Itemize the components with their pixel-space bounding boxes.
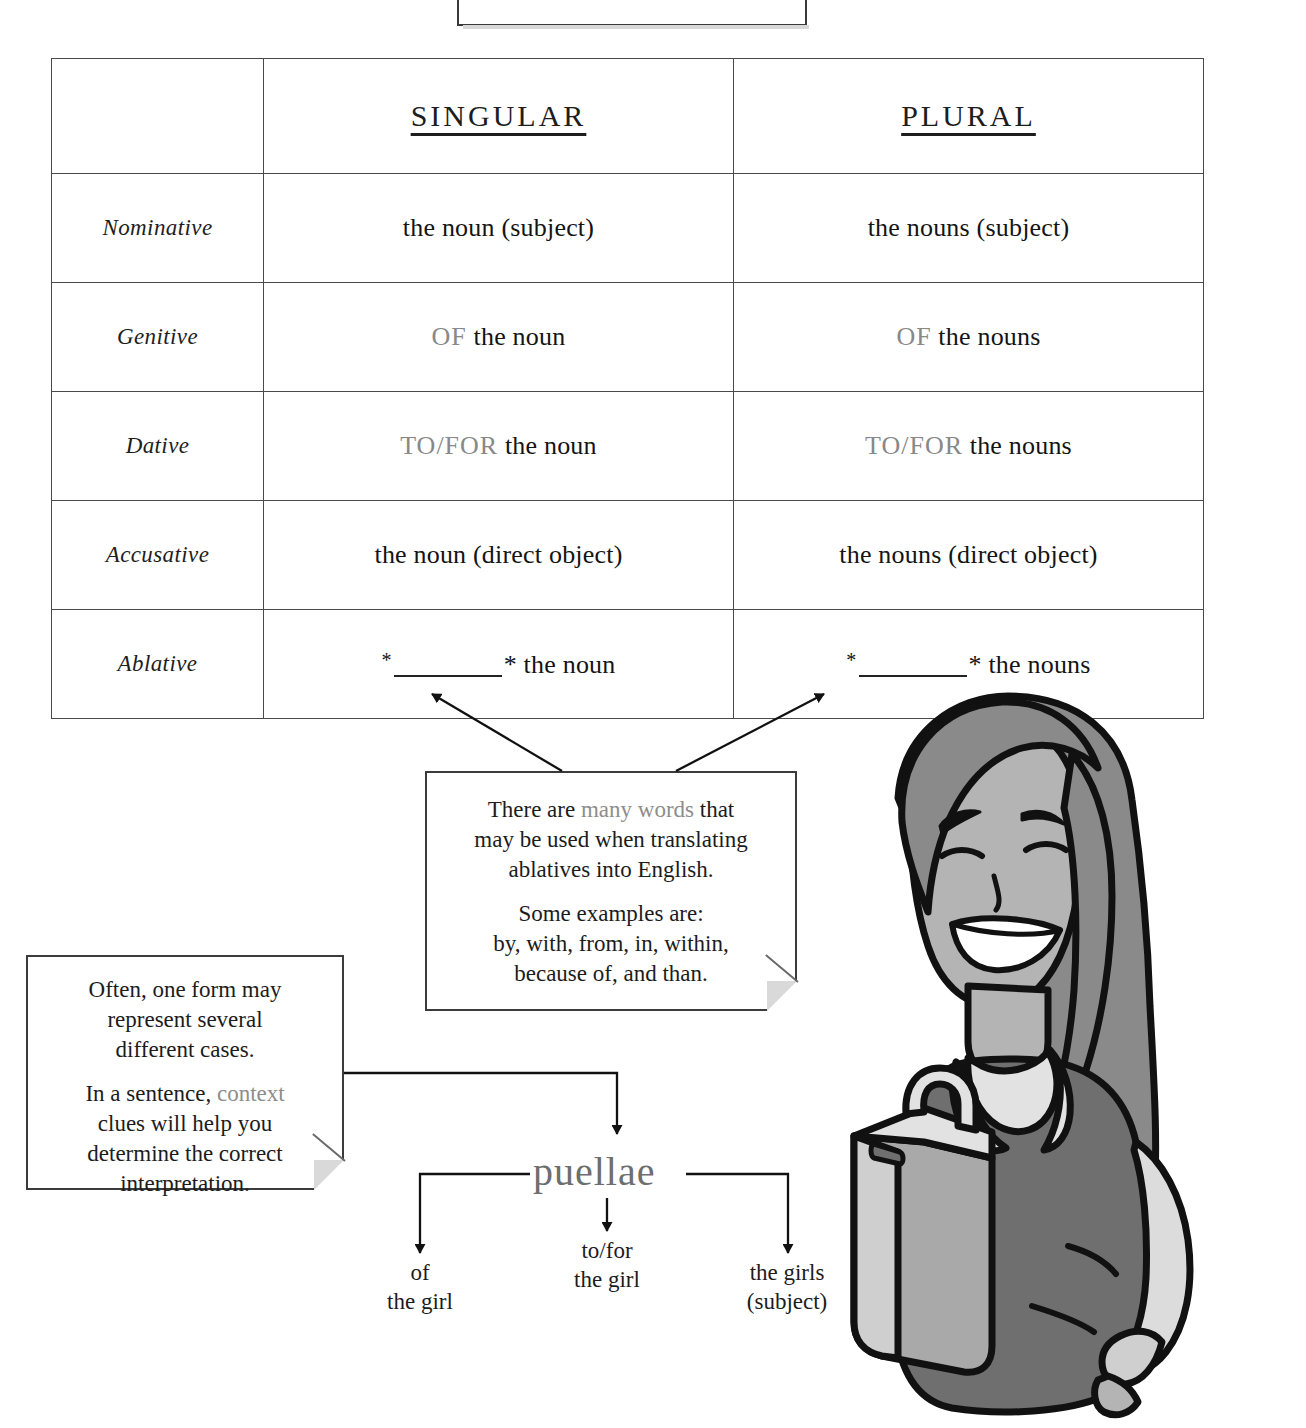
context-callout-line6: determine the correct (42, 1139, 328, 1169)
case-cell-dative: Dative (52, 392, 264, 501)
case-label-ablative: Ablative (118, 651, 198, 676)
noun-case-table: SINGULAR PLURAL Nominative the noun (sub… (51, 58, 1204, 719)
case-cell-genitive: Genitive (52, 283, 264, 392)
table-row-accusative: Accusative the noun (direct object) the … (52, 501, 1204, 610)
ablative-callout-line6: because of, and than. (445, 959, 777, 989)
branch-label-genitive-line1: of (350, 1258, 490, 1287)
header-cell-singular: SINGULAR (264, 59, 734, 174)
singular-cell-accusative: the noun (direct object) (264, 501, 734, 610)
branch-label-genitive: of the girl (350, 1258, 490, 1316)
plural-keyword-dative: TO/FOR (865, 431, 963, 460)
singular-text-accusative: the noun (direct object) (374, 540, 622, 569)
branch-label-dative: to/for the girl (532, 1236, 682, 1294)
context-callout-line4: In a sentence, context (42, 1079, 328, 1109)
singular-rest-genitive: the noun (467, 322, 566, 351)
paragraph-gap (445, 885, 777, 899)
singular-blank-line-ablative (394, 655, 502, 677)
table-header-row: SINGULAR PLURAL (52, 59, 1204, 174)
case-cell-accusative: Accusative (52, 501, 264, 610)
case-label-accusative: Accusative (106, 542, 210, 567)
case-cell-ablative: Ablative (52, 610, 264, 719)
plural-asterisk-open-ablative: * (846, 649, 856, 671)
headword-puellae: puellae (533, 1148, 656, 1195)
singular-cell-dative: TO/FOR the noun (264, 392, 734, 501)
briefcase-front-panel (854, 1136, 898, 1358)
paragraph-gap (42, 1065, 328, 1079)
plural-header-label: PLURAL (901, 99, 1036, 132)
table-row-nominative: Nominative the noun (subject) the nouns … (52, 174, 1204, 283)
table-row-dative: Dative TO/FOR the noun TO/FOR the nouns (52, 392, 1204, 501)
top-note-shadow (463, 25, 809, 29)
ablative-callout-box: There are many words that may be used wh… (425, 771, 797, 1011)
context-callout-line1: Often, one form may (42, 975, 328, 1005)
context-callout-box: Often, one form may represent several di… (26, 955, 344, 1190)
plural-cell-dative: TO/FOR the nouns (734, 392, 1204, 501)
singular-suffix-ablative: * the noun (504, 650, 616, 679)
singular-header-label: SINGULAR (411, 99, 587, 132)
plural-cell-genitive: OF the nouns (734, 283, 1204, 392)
plural-cell-nominative: the nouns (subject) (734, 174, 1204, 283)
plural-blank-line-ablative (859, 655, 967, 677)
context-callout-line3: different cases. (42, 1035, 328, 1065)
ablative-callout-line2: may be used when translating (445, 825, 777, 855)
top-note-box: of each noun case. (457, 0, 807, 26)
singular-cell-nominative: the noun (subject) (264, 174, 734, 283)
ablative-callout-line1: There are many words that (445, 795, 777, 825)
table-row-genitive: Genitive OF the noun OF the nouns (52, 283, 1204, 392)
ablative-callout-line4: Some examples are: (445, 899, 777, 929)
singular-asterisk-open-ablative: * (382, 649, 392, 671)
plural-rest-dative: the nouns (963, 431, 1072, 460)
page-fold-corner-icon (767, 981, 797, 1011)
connector-puellae-to-nominative (686, 1174, 788, 1253)
singular-cell-ablative: ** the noun (264, 610, 734, 719)
singular-cell-genitive: OF the noun (264, 283, 734, 392)
case-label-nominative: Nominative (102, 215, 212, 240)
ablative-callout-line3: ablatives into English. (445, 855, 777, 885)
plural-keyword-genitive: OF (896, 322, 931, 351)
singular-rest-dative: the noun (498, 431, 597, 460)
singular-keyword-genitive: OF (432, 322, 467, 351)
connector-puellae-to-genitive (420, 1174, 530, 1253)
plural-cell-accusative: the nouns (direct object) (734, 501, 1204, 610)
page-fold-corner-icon (314, 1160, 344, 1190)
connector-context-to-puellae (344, 1073, 617, 1134)
singular-text-nominative: the noun (subject) (403, 213, 594, 242)
plural-suffix-ablative: * the nouns (969, 650, 1091, 679)
many-words-highlight: many words (581, 797, 694, 822)
case-cell-nominative: Nominative (52, 174, 264, 283)
context-highlight: context (217, 1081, 285, 1106)
context-callout-line7: interpretation. (42, 1169, 328, 1199)
header-cell-plural: PLURAL (734, 59, 1204, 174)
smiling-woman-with-briefcase-illustration (836, 690, 1236, 1428)
case-label-genitive: Genitive (117, 324, 198, 349)
context-callout-line5: clues will help you (42, 1109, 328, 1139)
plural-rest-genitive: the nouns (932, 322, 1041, 351)
branch-label-genitive-line2: the girl (350, 1287, 490, 1316)
plural-text-nominative: the nouns (subject) (868, 213, 1070, 242)
case-label-dative: Dative (126, 433, 190, 458)
context-callout-line2: represent several (42, 1005, 328, 1035)
branch-label-dative-line2: the girl (532, 1265, 682, 1294)
header-cell-blank (52, 59, 264, 174)
singular-keyword-dative: TO/FOR (400, 431, 498, 460)
plural-text-accusative: the nouns (direct object) (839, 540, 1097, 569)
branch-label-dative-line1: to/for (532, 1236, 682, 1265)
ablative-callout-line5: by, with, from, in, within, (445, 929, 777, 959)
